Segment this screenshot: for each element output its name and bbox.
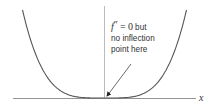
diagram: x f″= 0but no inflection point here (0, 0, 221, 107)
annotation-line3: point here (111, 45, 148, 54)
x-axis-label: x (198, 92, 204, 103)
annotation-line1: f″= 0but (111, 19, 147, 32)
equals-zero: = 0 (120, 21, 133, 32)
but-word: but (135, 23, 147, 32)
double-prime: ″ (114, 19, 118, 30)
annotation-arrow (107, 64, 131, 96)
annotation-line2: no inflection (111, 34, 155, 43)
